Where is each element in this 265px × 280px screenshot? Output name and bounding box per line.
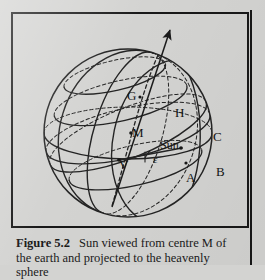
sphere-outline xyxy=(44,49,212,217)
figure-caption-label: Figure 5.2 xyxy=(16,236,70,250)
label-A: A xyxy=(186,171,195,184)
equator-front-arc xyxy=(46,114,215,176)
label-B: B xyxy=(216,165,225,178)
label-V: V xyxy=(119,158,128,171)
label-epsilon: ε xyxy=(153,154,158,165)
label-H: H xyxy=(175,106,184,119)
point-Sun xyxy=(179,146,183,150)
ecliptic-back-arc xyxy=(41,78,206,164)
label-M: M xyxy=(132,126,144,139)
label-C: C xyxy=(213,130,222,143)
point-G xyxy=(138,95,141,98)
right-colure xyxy=(176,52,200,210)
label-Sun: Sun xyxy=(160,139,179,151)
figure-caption: Figure 5.2Sun viewed from centre M of th… xyxy=(16,236,244,280)
point-A xyxy=(184,161,187,164)
label-G: G xyxy=(127,89,136,102)
